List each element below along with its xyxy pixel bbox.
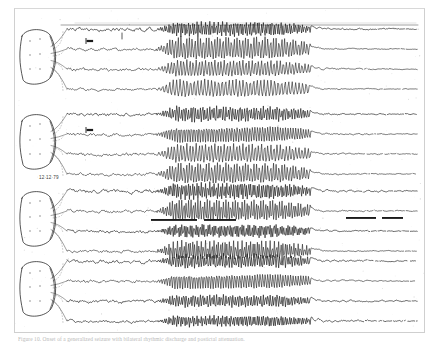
- head-diagram-2: [20, 115, 56, 170]
- electrode-dot: [39, 215, 41, 217]
- eeg-trace-t5-o1: [67, 79, 417, 97]
- eeg-trace-p4-o2: [67, 315, 417, 327]
- eeg-trace-f7-t3: [67, 36, 417, 59]
- figure-root: 12·12·79 Figure 10. Onset of a generaliz…: [0, 0, 441, 351]
- eeg-trace-f4-c4: [67, 274, 417, 289]
- traces-layer: [67, 21, 417, 327]
- electrode-dot: [39, 38, 41, 40]
- electrode-dot: [29, 272, 31, 274]
- montage-leadin-lines: [51, 191, 67, 253]
- calibration-bar-body: [87, 129, 94, 131]
- electrode-dot: [29, 54, 31, 56]
- event-bar-right: [204, 219, 236, 221]
- montage-leadin-lines: [51, 114, 67, 176]
- electrode-dot: [29, 125, 31, 127]
- calibration-marker-top: [86, 38, 93, 43]
- electrode-dot: [39, 200, 41, 202]
- electrode-dot: [29, 230, 31, 232]
- eeg-trace-t6-o2: [67, 163, 417, 183]
- electrode-dot: [39, 285, 41, 287]
- eeg-plate: [15, 9, 424, 332]
- figure-caption-region: Figure 10. Onset of a generalized seizur…: [18, 336, 422, 350]
- electrode-dot: [29, 68, 31, 70]
- calibration-marker-mid: [86, 127, 93, 132]
- electrode-dot: [29, 139, 31, 141]
- electrode-dot: [39, 68, 41, 70]
- figure-caption: Figure 10. Onset of a generalized seizur…: [18, 336, 422, 343]
- head-diagram-4: [20, 262, 56, 317]
- eeg-trace-t3-t5: [67, 60, 417, 77]
- electrode-dot: [39, 300, 41, 302]
- eeg-trace-c4-p4: [67, 294, 417, 307]
- event-bar-far-right: [346, 217, 376, 219]
- electrode-dot: [39, 123, 41, 125]
- electrode-dot: [29, 300, 31, 302]
- eeg-trace-fp2-f8: [67, 106, 417, 123]
- electrode-dot: [39, 53, 41, 55]
- event-bar-left: [151, 219, 197, 221]
- electrode-dot: [39, 138, 41, 140]
- electrode-dot: [29, 202, 31, 204]
- head-diagram-1: [20, 30, 56, 85]
- electrode-dot: [29, 40, 31, 42]
- electrode-dot: [29, 216, 31, 218]
- electrode-dot: [29, 286, 31, 288]
- eeg-traces-canvas: [15, 9, 424, 332]
- montage-leadin-lines: [51, 261, 67, 323]
- electrode-dot: [39, 153, 41, 155]
- electrode-dot: [39, 230, 41, 232]
- eeg-trace-p3-o1: [67, 240, 417, 259]
- event-bar-far-right-2: [382, 217, 403, 219]
- eeg-trace-t4-t6: [67, 143, 417, 162]
- eeg-trace-f8-t4: [67, 127, 417, 143]
- eeg-trace-fp1-f7: [67, 21, 417, 37]
- eeg-trace-fp1-f3: [67, 182, 417, 200]
- recording-date-stamp: 12·12·79: [39, 175, 59, 180]
- calibration-bar-body: [87, 40, 94, 42]
- head-diagram-3: [20, 192, 56, 247]
- scanned-plate-frame: 12·12·79: [14, 8, 425, 333]
- montage-leadin-lines: [51, 29, 67, 91]
- eeg-trace-fp2-f4: [67, 253, 417, 268]
- electrode-dot: [29, 153, 31, 155]
- electrode-dot: [39, 270, 41, 272]
